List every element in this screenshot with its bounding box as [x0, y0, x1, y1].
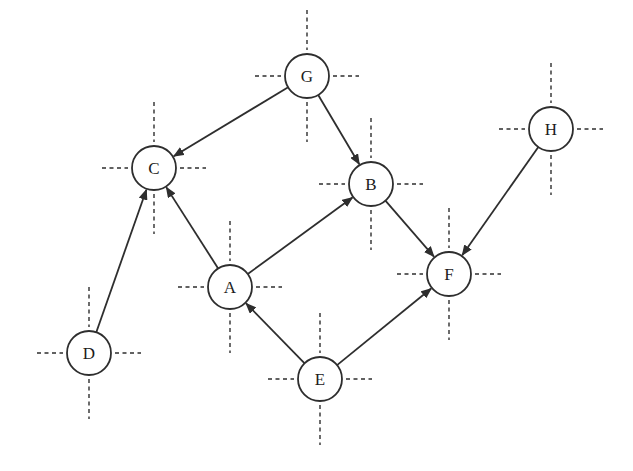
node-label-G: G: [301, 67, 313, 86]
edge-E-A: [246, 303, 305, 363]
edge-A-C: [166, 187, 218, 268]
node-label-H: H: [545, 120, 557, 139]
directed-graph-svg: ABCDEFGH: [0, 0, 633, 471]
edge-G-C: [174, 87, 288, 156]
node-C: C: [132, 146, 176, 190]
node-G: G: [285, 54, 329, 98]
node-layer: ABCDEFGH: [67, 54, 573, 401]
node-H: H: [529, 107, 573, 151]
node-label-E: E: [315, 370, 325, 389]
edge-layer: [96, 87, 538, 365]
edge-E-F: [337, 289, 431, 366]
node-label-D: D: [83, 344, 95, 363]
edge-H-F: [462, 147, 538, 255]
node-A: A: [208, 265, 252, 309]
node-F: F: [427, 252, 471, 296]
graph-figure: ABCDEFGH: [0, 0, 633, 471]
edge-D-C: [96, 190, 146, 333]
node-D: D: [67, 331, 111, 375]
edge-G-B: [318, 95, 359, 164]
node-label-A: A: [224, 278, 237, 297]
node-label-C: C: [148, 159, 159, 178]
node-E: E: [298, 357, 342, 401]
edge-B-F: [385, 201, 434, 257]
node-B: B: [349, 162, 393, 206]
node-label-B: B: [365, 175, 376, 194]
edge-A-B: [248, 198, 353, 274]
node-label-F: F: [444, 265, 453, 284]
